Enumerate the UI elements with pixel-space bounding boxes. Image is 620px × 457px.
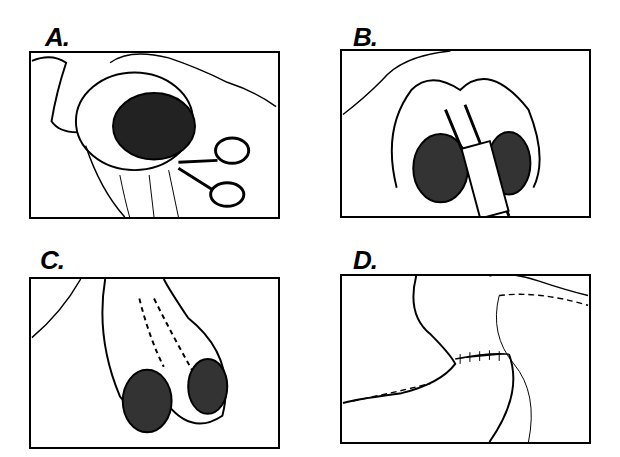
panel-label-b: B.: [353, 24, 377, 50]
panel-label-c: C.: [40, 247, 64, 273]
completed-anastomosis-illustration: [342, 276, 589, 442]
bowel-staple-line-illustration: [31, 279, 278, 447]
panel-a-illustration: [29, 51, 280, 219]
bowel-stapler-illustration: [342, 51, 589, 216]
bowel-scissors-illustration: [31, 53, 278, 217]
panel-label-d: D.: [353, 247, 377, 273]
panel-label-a: A.: [45, 24, 69, 50]
panel-c-illustration: [29, 277, 280, 449]
panel-d-illustration: [340, 274, 591, 444]
panel-b-illustration: [340, 49, 591, 218]
